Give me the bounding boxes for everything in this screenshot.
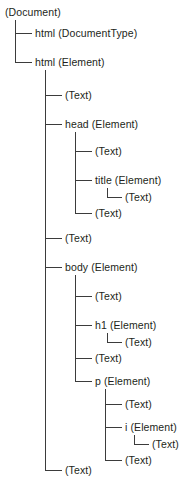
tree-node-n18: (Text) — [152, 438, 179, 450]
elbow-title-text — [107, 197, 122, 198]
tree-node-n8: (Text) — [95, 207, 122, 219]
tree-node-n5: (Text) — [95, 145, 122, 157]
elbow-head-text2 — [75, 213, 92, 214]
elbow-h1 — [75, 325, 92, 326]
stem-head — [75, 132, 76, 213]
tree-node-n14: (Text) — [95, 352, 122, 364]
tree-node-n2: html (Element) — [35, 56, 105, 68]
elbow-title — [75, 180, 92, 181]
elbow-html-element — [15, 62, 32, 63]
tree-node-n20: (Text) — [65, 464, 92, 476]
tree-node-n6: title (Element) — [95, 174, 161, 186]
tree-node-n0: (Document) — [5, 6, 61, 18]
elbow-html-text2 — [45, 238, 62, 239]
tree-node-n10: body (Element) — [65, 261, 138, 273]
elbow-head — [45, 124, 62, 125]
dom-tree-diagram: (Document)html (DocumentType)html (Eleme… — [0, 0, 181, 489]
tree-node-n12: h1 (Element) — [95, 319, 156, 331]
tree-node-n16: (Text) — [125, 398, 152, 410]
elbow-html-text1 — [45, 95, 62, 96]
elbow-h1-text — [107, 342, 122, 343]
stem-p — [105, 389, 106, 460]
elbow-body-text1 — [75, 296, 92, 297]
stem-h1 — [107, 333, 108, 342]
tree-node-n11: (Text) — [95, 290, 122, 302]
elbow-documenttype — [15, 33, 32, 34]
elbow-html-text3 — [45, 470, 62, 471]
tree-node-n4: head (Element) — [65, 118, 138, 130]
elbow-head-text1 — [75, 151, 92, 152]
tree-node-n19: (Text) — [125, 454, 152, 466]
stem-i — [134, 435, 135, 444]
elbow-body-text2 — [75, 358, 92, 359]
elbow-i-text — [134, 444, 149, 445]
elbow-p-text2 — [105, 460, 122, 461]
elbow-p — [75, 381, 92, 382]
tree-node-n1: html (DocumentType) — [35, 27, 137, 39]
stem-document — [15, 20, 16, 62]
stem-title — [107, 188, 108, 197]
tree-node-n15: p (Element) — [95, 375, 150, 387]
elbow-p-text1 — [105, 404, 122, 405]
elbow-body — [45, 267, 62, 268]
stem-html — [45, 70, 46, 470]
tree-node-n17: i (Element) — [125, 421, 177, 433]
tree-node-n3: (Text) — [65, 89, 92, 101]
tree-node-n9: (Text) — [65, 232, 92, 244]
elbow-i — [105, 427, 122, 428]
tree-node-n7: (Text) — [125, 191, 152, 203]
stem-body — [75, 275, 76, 381]
tree-node-n13: (Text) — [125, 336, 152, 348]
